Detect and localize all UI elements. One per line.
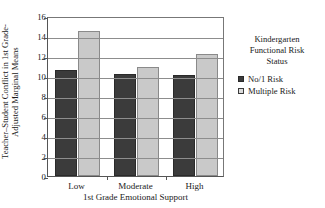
x-tick-label: Moderate xyxy=(118,182,152,191)
y-tick-label: 0 xyxy=(42,173,46,182)
bar xyxy=(114,74,136,176)
bar-series-container xyxy=(48,18,223,176)
bar xyxy=(173,75,195,176)
bar xyxy=(78,31,100,176)
y-axis-title-line-1: Teacher–Student Conflict in 1st Grade- xyxy=(1,0,10,184)
legend-item: Multiple Risk xyxy=(238,87,323,96)
y-axis-tick-labels: 0246810121416 xyxy=(26,0,46,208)
y-tick-label: 10 xyxy=(37,73,46,82)
gridline xyxy=(48,138,223,139)
y-tick-label: 8 xyxy=(42,93,46,102)
legend-label: Multiple Risk xyxy=(248,87,296,96)
gridline xyxy=(48,78,223,79)
y-tick-label: 6 xyxy=(42,113,46,122)
legend-items: No/1 RiskMultiple Risk xyxy=(231,75,323,95)
legend-title: Kindergarten Functional Risk Status xyxy=(231,34,323,67)
x-tick-label: Low xyxy=(68,182,85,191)
legend-swatch-icon xyxy=(238,88,244,94)
gridline xyxy=(48,58,223,59)
legend: Kindergarten Functional Risk Status No/1… xyxy=(231,34,323,98)
y-axis-title-line-2: Adjusted Marginal Means xyxy=(11,0,20,184)
bar-chart: Teacher–Student Conflict in 1st Grade- A… xyxy=(0,0,325,208)
y-axis-tick xyxy=(44,178,48,179)
x-tick-label: High xyxy=(186,182,204,191)
y-tick-label: 2 xyxy=(42,153,46,162)
legend-title-line-2: Functional Risk xyxy=(231,45,323,56)
bar xyxy=(55,70,77,176)
legend-item: No/1 Risk xyxy=(238,75,323,84)
y-tick-label: 16 xyxy=(37,13,46,22)
y-tick-label: 14 xyxy=(37,33,46,42)
legend-swatch-icon xyxy=(238,76,244,82)
legend-title-line-1: Kindergarten xyxy=(231,34,323,45)
legend-title-line-3: Status xyxy=(231,56,323,67)
gridline xyxy=(48,158,223,159)
y-tick-label: 12 xyxy=(37,53,46,62)
gridline xyxy=(48,38,223,39)
x-axis-title: 1st Grade Emotional Support xyxy=(47,193,224,202)
legend-label: No/1 Risk xyxy=(248,75,283,84)
gridline xyxy=(48,98,223,99)
y-tick-label: 4 xyxy=(42,133,46,142)
bar xyxy=(137,67,159,176)
x-axis-tick xyxy=(166,176,167,180)
plot-area xyxy=(47,17,224,177)
x-axis-tick xyxy=(107,176,108,180)
y-axis-tick xyxy=(44,18,48,19)
gridline xyxy=(48,118,223,119)
